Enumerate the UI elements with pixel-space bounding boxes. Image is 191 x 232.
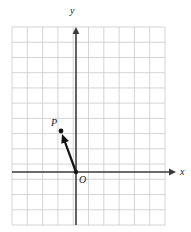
y-axis-label: y (69, 5, 75, 16)
point-dot-o (74, 170, 78, 174)
coordinate-plane-diagram: y x P O (0, 0, 191, 232)
point-dot-p (59, 129, 64, 134)
x-axis-label: x (179, 166, 185, 177)
point-label-p: P (50, 117, 57, 128)
canvas-background (0, 0, 191, 232)
figure-root: y x P O (0, 0, 191, 232)
point-label-o: O (79, 174, 86, 185)
